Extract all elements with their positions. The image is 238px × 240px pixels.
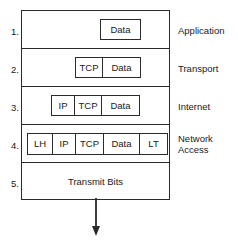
protocol-stack-frame: Data TCP Data IP TCP Data LH IP TCP Data… <box>21 10 170 200</box>
pdu-cell-tcp: TCP <box>76 58 103 77</box>
pdu-strip-internet: IP TCP Data <box>51 95 140 116</box>
layer-name-network-access-line2: Access <box>178 144 238 155</box>
layer-row-transport: TCP Data <box>22 49 169 87</box>
pdu-cell-ip: IP <box>52 96 75 115</box>
row-number-1: 1. <box>4 27 19 37</box>
layer-name-transport: Transport <box>178 63 238 74</box>
layer-name-internet: Internet <box>178 101 238 112</box>
pdu-strip-network-access: LH IP TCP Data LT <box>27 133 168 155</box>
layer-row-transmit-bits: Transmit Bits <box>22 163 169 201</box>
layer-row-application: Data <box>22 11 169 49</box>
pdu-cell-tcp: TCP <box>76 134 104 154</box>
pdu-cell-data: Data <box>102 96 139 115</box>
pdu-strip-application: Data <box>100 19 141 40</box>
encapsulation-diagram: 1. 2. 3. 4. 5. Data TCP Data IP TCP Data <box>0 0 238 240</box>
layer-name-application: Application <box>178 25 238 36</box>
pdu-cell-tcp: TCP <box>75 96 102 115</box>
pdu-strip-transport: TCP Data <box>75 57 141 78</box>
pdu-cell-lh: LH <box>28 134 53 154</box>
down-arrow-icon <box>88 198 104 238</box>
row-number-2: 2. <box>4 65 19 75</box>
layer-row-internet: IP TCP Data <box>22 87 169 125</box>
pdu-cell-lt: LT <box>140 134 167 154</box>
transmit-bits-label: Transmit Bits <box>22 177 169 187</box>
row-number-3: 3. <box>4 103 19 113</box>
pdu-cell-ip: IP <box>53 134 76 154</box>
pdu-cell-data: Data <box>101 20 140 39</box>
pdu-cell-data: Data <box>104 134 140 154</box>
layer-row-network-access: LH IP TCP Data LT <box>22 125 169 163</box>
row-number-4: 4. <box>4 141 19 151</box>
row-number-5: 5. <box>4 179 19 189</box>
pdu-cell-data: Data <box>103 58 140 77</box>
layer-name-network-access-line1: Network <box>178 133 238 144</box>
